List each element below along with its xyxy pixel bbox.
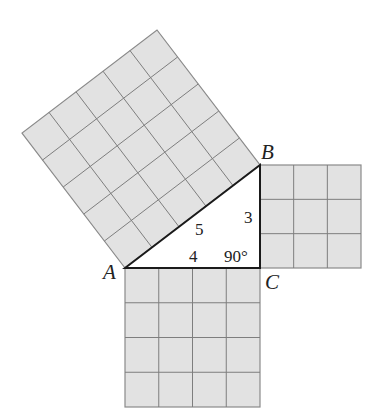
vertex-label-a: A bbox=[101, 260, 116, 284]
hypotenuse-length-label: 5 bbox=[195, 220, 204, 239]
pythagorean-diagram: A B C 5 3 4 90° bbox=[0, 0, 386, 420]
horizontal-side-square bbox=[125, 268, 260, 407]
horizontal-side-length-label: 4 bbox=[189, 247, 198, 266]
vertex-label-c: C bbox=[265, 270, 280, 294]
vertex-label-b: B bbox=[261, 140, 274, 164]
vertical-side-length-label: 3 bbox=[244, 208, 253, 227]
vertical-side-square bbox=[260, 165, 361, 268]
right-angle-label: 90° bbox=[224, 247, 248, 266]
